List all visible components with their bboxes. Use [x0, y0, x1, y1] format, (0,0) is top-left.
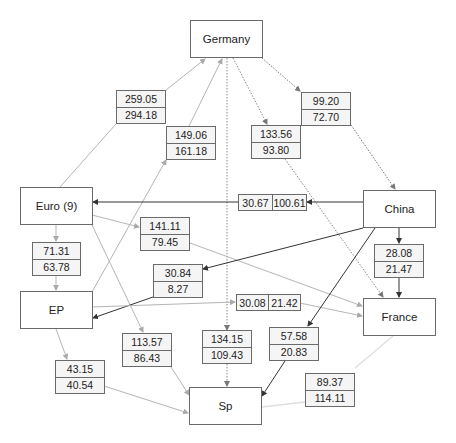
- value-bottom: 72.70: [302, 109, 350, 126]
- label-germany-china: 99.20 72.70: [301, 92, 351, 126]
- label-france-sp: 89.37 114.11: [305, 373, 355, 407]
- node-label: China: [384, 203, 414, 215]
- value-left: 30.67: [239, 195, 272, 210]
- value-top: 134.15: [203, 331, 251, 347]
- value-bottom: 21.47: [375, 261, 423, 278]
- value-right: 21.42: [268, 295, 300, 310]
- node-label: EP: [49, 304, 64, 316]
- value-top: 259.05: [117, 91, 165, 107]
- value-top: 43.15: [56, 361, 104, 377]
- label-germany-sp: 134.15 109.43: [202, 330, 252, 364]
- label-germany-france: 133.56 93.80: [251, 125, 301, 159]
- label-euro-sp: 113.57 86.43: [122, 333, 172, 367]
- value-bottom: 20.83: [270, 344, 318, 361]
- edge-china-sp: [262, 228, 375, 396]
- label-euro-ep: 71.31 63.78: [32, 242, 81, 276]
- node-ep: EP: [20, 291, 93, 329]
- value-top: 141.11: [141, 218, 189, 234]
- node-china: China: [363, 190, 436, 228]
- label-china-sp: 57.58 20.83: [269, 327, 319, 361]
- value-bottom: 40.54: [56, 377, 104, 394]
- value-top: 99.20: [302, 93, 350, 109]
- node-label: Germany: [203, 33, 250, 45]
- value-left: 30.08: [237, 295, 268, 310]
- value-bottom: 161.18: [167, 143, 215, 160]
- label-ep-germany: 149.06 161.18: [166, 126, 216, 160]
- label-china-euro: 30.67 100.61: [238, 194, 307, 211]
- value-top: 113.57: [123, 334, 171, 350]
- value-top: 71.31: [33, 243, 80, 259]
- value-bottom: 8.27: [154, 281, 202, 298]
- value-bottom: 79.45: [141, 234, 189, 251]
- value-bottom: 114.11: [306, 390, 354, 407]
- label-china-ep: 30.84 8.27: [153, 264, 203, 298]
- label-china-france: 28.08 21.47: [374, 244, 424, 278]
- value-top: 149.06: [167, 127, 215, 143]
- value-bottom: 93.80: [252, 142, 300, 159]
- value-top: 30.84: [154, 265, 202, 281]
- value-top: 89.37: [306, 374, 354, 390]
- value-right: 100.61: [272, 195, 306, 210]
- node-germany: Germany: [190, 20, 263, 58]
- value-top: 133.56: [252, 126, 300, 142]
- label-euro-germany: 259.05 294.18: [116, 90, 166, 124]
- label-ep-sp: 43.15 40.54: [55, 360, 105, 394]
- label-ep-france: 30.08 21.42: [236, 294, 301, 311]
- node-label: France: [382, 311, 418, 323]
- node-sp: Sp: [189, 387, 262, 425]
- node-france: France: [363, 298, 436, 336]
- value-bottom: 86.43: [123, 350, 171, 367]
- value-bottom: 109.43: [203, 347, 251, 364]
- value-top: 57.58: [270, 328, 318, 344]
- value-top: 28.08: [375, 245, 423, 261]
- node-euro9: Euro (9): [20, 187, 93, 225]
- label-euro-france: 141.11 79.45: [140, 217, 190, 251]
- node-label: Sp: [218, 400, 232, 412]
- node-label: Euro (9): [36, 200, 78, 212]
- value-bottom: 294.18: [117, 107, 165, 124]
- value-bottom: 63.78: [33, 259, 80, 276]
